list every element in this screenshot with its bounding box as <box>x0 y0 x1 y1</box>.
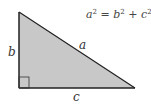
label-a: a <box>79 38 86 52</box>
pythagorean-equation: a2 = b2 + c2 <box>86 8 151 21</box>
right-triangle-diagram: b a c a2 = b2 + c2 <box>0 0 151 107</box>
label-c: c <box>73 90 80 104</box>
label-b: b <box>8 45 16 59</box>
